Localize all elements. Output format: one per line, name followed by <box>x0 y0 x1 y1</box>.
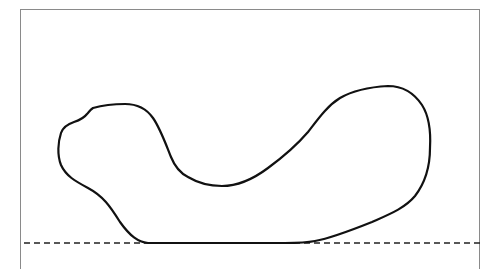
contour-outline <box>58 86 430 243</box>
